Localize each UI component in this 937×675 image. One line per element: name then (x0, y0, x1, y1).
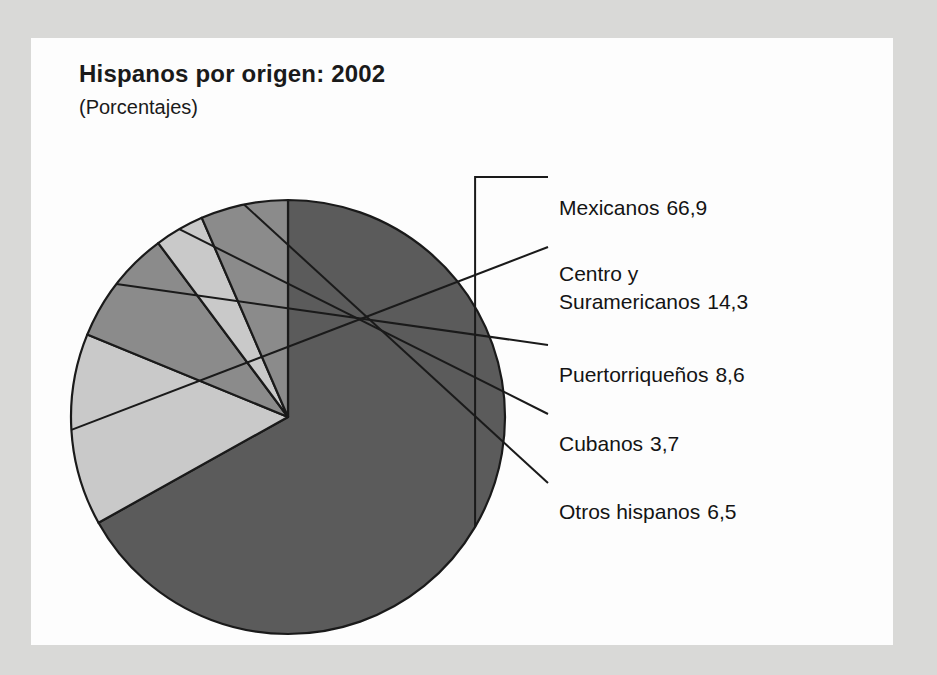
legend-label-text: Mexicanos (559, 196, 659, 219)
pie-chart (31, 38, 893, 645)
pie-slice-group (71, 200, 505, 634)
legend-item-cubanos: Cubanos3,7 (559, 430, 679, 458)
legend-label-text: Cubanos (559, 432, 643, 455)
legend-value-text: 14,3 (707, 290, 748, 313)
legend-value-text: 8,6 (715, 363, 744, 386)
legend-item-centro-y-suramericanos: Centro y Suramericanos14,3 (559, 260, 748, 316)
legend-item-otros-hispanos: Otros hispanos6,5 (559, 498, 736, 526)
legend-label-text: Otros hispanos (559, 500, 700, 523)
legend-item-puertorriquenos: Puertorriqueños8,6 (559, 361, 745, 389)
legend-label-text-line1: Centro y (559, 260, 748, 288)
legend-value-text: 3,7 (650, 432, 679, 455)
chart-card: Hispanos por origen: 2002 (Porcentajes) … (31, 38, 893, 645)
legend-label-text: Puertorriqueños (559, 363, 708, 386)
legend-label-text-line2: Suramericanos14,3 (559, 288, 748, 316)
legend-value-text: 66,9 (666, 196, 707, 219)
legend-value-text: 6,5 (707, 500, 736, 523)
legend-item-mexicanos: Mexicanos66,9 (559, 194, 707, 222)
